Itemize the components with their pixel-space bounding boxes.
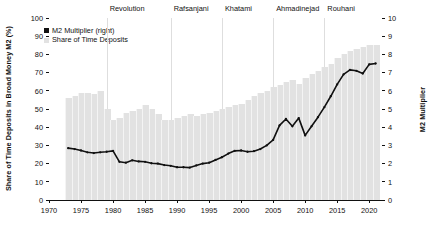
m2-multiplier-point-1984 — [138, 160, 140, 162]
m2-multiplier-point-1985 — [144, 161, 146, 163]
m2-multiplier-point-1977 — [93, 152, 95, 154]
m2-multiplier-point-1982 — [125, 162, 127, 164]
m2-multiplier-point-1983 — [131, 159, 133, 161]
m2-multiplier-point-2004 — [266, 144, 268, 146]
m2-multiplier-point-1989 — [170, 165, 172, 167]
m2-multiplier-point-2005 — [272, 139, 274, 141]
m2-multiplier-point-2012 — [317, 116, 319, 118]
m2-multiplier-point-2007 — [285, 118, 287, 120]
line-series-layer — [0, 0, 433, 232]
m2-multiplier-point-1980 — [112, 150, 114, 152]
m2-multiplier-point-2021 — [374, 62, 376, 64]
m2-multiplier-point-2006 — [278, 124, 280, 126]
m2-multiplier-point-1992 — [189, 166, 191, 168]
chart-figure: Share of Time Deposits in Broad Money M2… — [0, 0, 433, 232]
m2-multiplier-point-2020 — [368, 63, 370, 65]
m2-multiplier-point-2008 — [291, 125, 293, 127]
m2-multiplier-point-1979 — [105, 151, 107, 153]
m2-multiplier-point-1993 — [195, 164, 197, 166]
m2-multiplier-point-2016 — [342, 73, 344, 75]
m2-multiplier-point-1978 — [99, 151, 101, 153]
m2-multiplier-point-1973 — [67, 147, 69, 149]
m2-multiplier-point-1987 — [157, 162, 159, 164]
m2-multiplier-point-2010 — [304, 134, 306, 136]
m2-multiplier-point-2013 — [323, 106, 325, 108]
m2-multiplier-point-1974 — [73, 148, 75, 150]
m2-multiplier-point-1999 — [234, 150, 236, 152]
m2-multiplier-point-2000 — [240, 149, 242, 151]
m2-multiplier-point-2001 — [246, 151, 248, 153]
m2-multiplier-point-2017 — [349, 69, 351, 71]
m2-multiplier-point-1981 — [118, 161, 120, 163]
m2-multiplier-point-1986 — [150, 162, 152, 164]
m2-multiplier-point-1991 — [182, 166, 184, 168]
m2-multiplier-point-1990 — [176, 166, 178, 168]
m2-multiplier-line — [68, 64, 375, 168]
m2-multiplier-point-1976 — [86, 151, 88, 153]
m2-multiplier-point-1995 — [208, 162, 210, 164]
m2-multiplier-point-1994 — [202, 162, 204, 164]
m2-multiplier-point-2019 — [362, 72, 364, 74]
m2-multiplier-point-1975 — [80, 149, 82, 151]
m2-multiplier-point-2018 — [355, 70, 357, 72]
m2-multiplier-point-1988 — [163, 164, 165, 166]
m2-multiplier-point-2002 — [253, 150, 255, 152]
m2-multiplier-point-2011 — [310, 125, 312, 127]
m2-multiplier-point-1997 — [221, 156, 223, 158]
m2-multiplier-point-1998 — [227, 152, 229, 154]
m2-multiplier-point-2014 — [330, 95, 332, 97]
m2-multiplier-point-2009 — [298, 117, 300, 119]
m2-multiplier-point-2015 — [336, 83, 338, 85]
m2-multiplier-point-1996 — [214, 159, 216, 161]
m2-multiplier-point-2003 — [259, 148, 261, 150]
